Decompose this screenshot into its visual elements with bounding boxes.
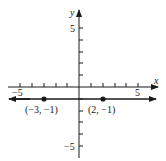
y-tick-label-5: 5 [70, 23, 75, 34]
y-tick-label-neg5: −5 [64, 141, 75, 152]
coordinate-graph: x y −5 5 5 −5 (−3, −1) (2, −1) [0, 0, 166, 161]
point-label-2-neg1: (2, −1) [88, 104, 115, 116]
x-tick-label-5: 5 [135, 87, 140, 98]
y-axis-label: y [69, 7, 75, 18]
point-label-neg3-neg1: (−3, −1) [25, 104, 58, 116]
x-tick-label-neg5: −5 [12, 87, 23, 98]
x-axis-label: x [153, 75, 159, 86]
point-neg3-neg1 [41, 96, 46, 101]
point-2-neg1 [100, 96, 105, 101]
